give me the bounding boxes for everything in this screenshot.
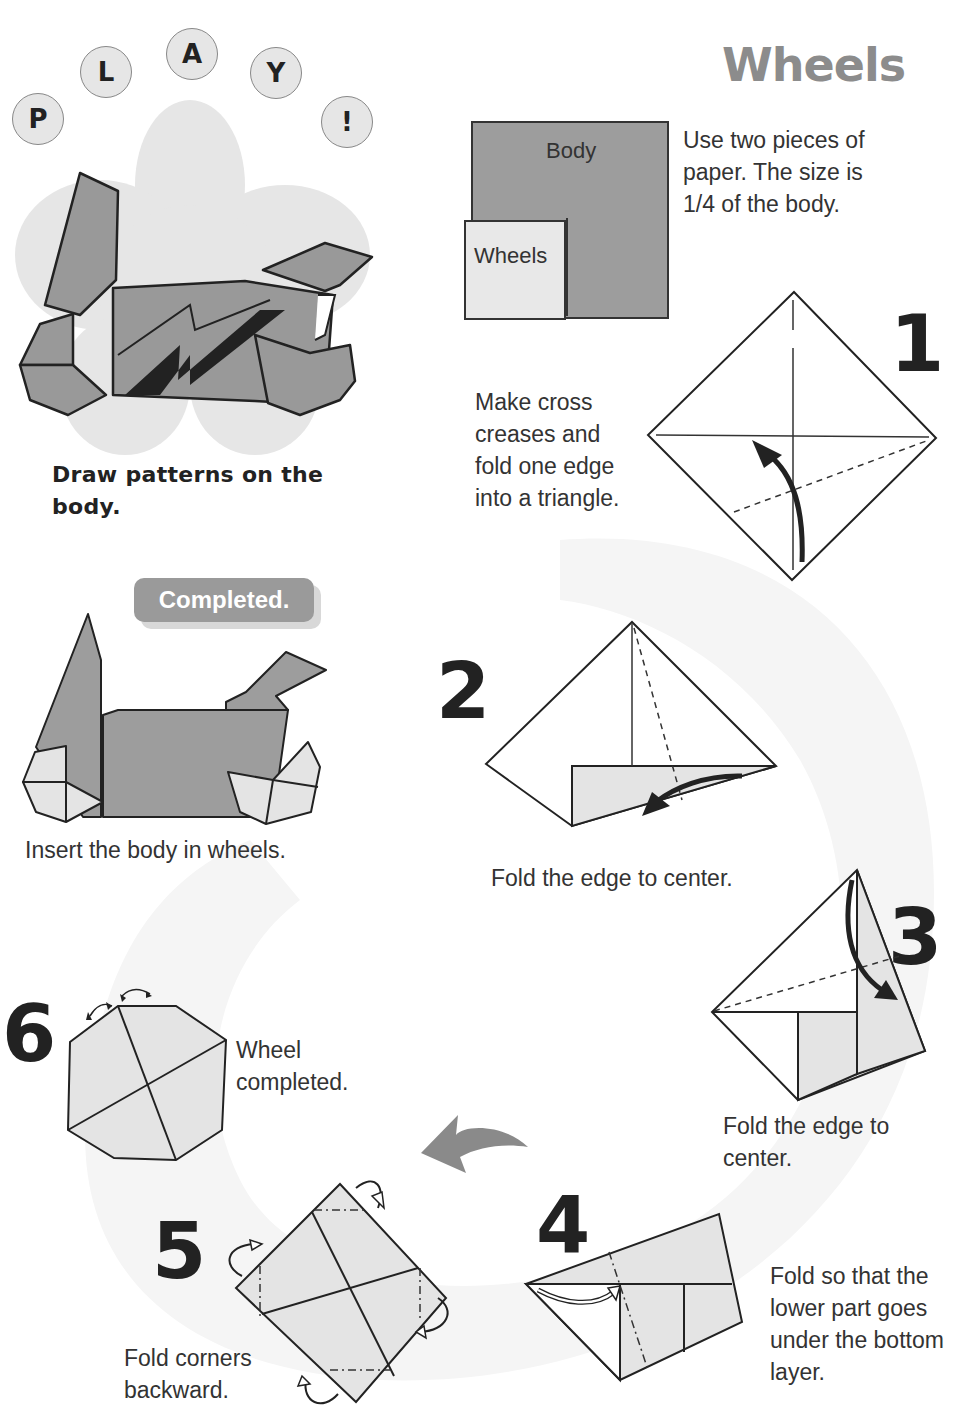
step-line: Fold corners <box>124 1342 252 1374</box>
step-6-number: 6 <box>2 995 56 1073</box>
step-6-wheel-diagram <box>62 984 232 1164</box>
step-6-text: Wheel completed. <box>236 1034 349 1098</box>
step-line: Fold the edge to <box>723 1110 889 1142</box>
wheels-paper-label: Wheels <box>474 243 547 269</box>
step-4-diagram <box>524 1212 764 1392</box>
direction-arrow-icon <box>418 1105 538 1185</box>
step-line: creases and <box>475 418 619 450</box>
step-line: Wheel <box>236 1034 349 1066</box>
step-5-number: 5 <box>152 1212 206 1290</box>
step-line: lower part goes <box>770 1292 944 1324</box>
intro-description: Use two pieces of paper. The size is 1/4… <box>683 124 865 220</box>
play-letter-l: L <box>80 46 132 98</box>
step-2-text: Fold the edge to center. <box>491 862 733 894</box>
step-line: fold one edge <box>475 450 619 482</box>
completed-car-illustration <box>18 612 348 842</box>
step-line: layer. <box>770 1356 944 1388</box>
step-line: under the bottom <box>770 1324 944 1356</box>
step-2-diagram <box>484 620 784 840</box>
step-5-text: Fold corners backward. <box>124 1342 252 1406</box>
draw-patterns-caption: Draw patterns on the body. <box>52 459 323 523</box>
page-title: Wheels <box>722 38 905 92</box>
intro-line: 1/4 of the body. <box>683 188 865 220</box>
intro-line: Use two pieces of <box>683 124 865 156</box>
step-line: completed. <box>236 1066 349 1098</box>
step-line: Make cross <box>475 386 619 418</box>
intro-line: paper. The size is <box>683 156 865 188</box>
play-letter-y: Y <box>250 47 302 99</box>
caption-line: Draw patterns on the <box>52 459 323 491</box>
body-paper-label: Body <box>546 138 596 164</box>
step-1-text: Make cross creases and fold one edge int… <box>475 386 619 514</box>
step-5-diagram <box>226 1180 466 1410</box>
step-line: Fold so that the <box>770 1260 944 1292</box>
step-1-diagram <box>644 290 944 590</box>
step-line: into a triangle. <box>475 482 619 514</box>
play-letter-a: A <box>166 28 218 80</box>
step-4-text: Fold so that the lower part goes under t… <box>770 1260 944 1388</box>
step-line: center. <box>723 1142 889 1174</box>
step-line: backward. <box>124 1374 252 1406</box>
step-3-text: Fold the edge to center. <box>723 1110 889 1174</box>
completed-caption: Insert the body in wheels. <box>25 834 286 866</box>
step-3-diagram <box>710 868 940 1108</box>
step-2-number: 2 <box>436 652 490 730</box>
caption-line: body. <box>52 491 323 523</box>
decorated-car-illustration <box>0 95 380 395</box>
